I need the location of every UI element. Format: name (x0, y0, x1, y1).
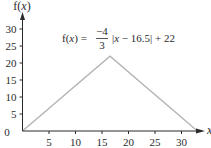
y-tick-label: 10 (6, 91, 18, 103)
formula-prefix: f(x) = (62, 32, 87, 45)
x-tick-label: 10 (70, 136, 82, 148)
origin-label: 0 (4, 126, 10, 138)
y-axis-arrow-icon (20, 12, 25, 20)
x-tick-label: 20 (123, 136, 135, 148)
chart: 51015202530510152025300f(x)xf(x) =−43|x … (0, 0, 211, 148)
formula-denominator: 3 (99, 39, 105, 51)
x-axis-label: x (206, 123, 211, 137)
y-tick-label: 20 (6, 57, 18, 69)
plot-area: 51015202530510152025300f(x)xf(x) =−43|x … (4, 0, 211, 148)
y-tick-label: 25 (6, 40, 18, 52)
data-line (23, 56, 198, 131)
y-tick-label: 30 (6, 23, 18, 35)
formula-suffix: |x − 16.5| + 22 (112, 32, 175, 44)
x-tick-label: 5 (46, 136, 52, 148)
x-tick-label: 30 (176, 136, 188, 148)
y-tick-label: 5 (11, 108, 17, 120)
y-axis-label: f(x) (13, 0, 30, 13)
y-tick-label: 15 (6, 74, 18, 86)
formula-numerator: −4 (96, 25, 108, 37)
x-tick-label: 15 (97, 136, 109, 148)
x-axis-arrow-icon (196, 129, 205, 134)
x-tick-label: 25 (150, 136, 162, 148)
